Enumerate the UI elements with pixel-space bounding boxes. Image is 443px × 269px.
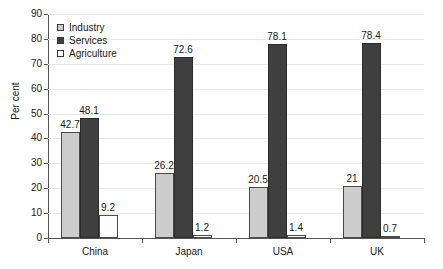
legend-swatch-icon xyxy=(57,50,64,57)
y-axis-tick-label: 30 xyxy=(2,158,42,168)
legend-item-industry[interactable]: Industry xyxy=(57,21,117,34)
y-axis-tick-label-container: 40 xyxy=(0,133,42,143)
bar-china-industry[interactable] xyxy=(61,132,80,238)
bar-group: 20.578.11.4 xyxy=(249,14,306,238)
y-axis-tick-label: 40 xyxy=(2,133,42,143)
y-axis-tick-label: 60 xyxy=(2,84,42,94)
y-axis-tick-label-container: 90 xyxy=(0,9,42,19)
legend-item-services[interactable]: Services xyxy=(57,34,117,47)
bar-uk-services[interactable] xyxy=(362,43,381,238)
y-axis-tick-label-container: 30 xyxy=(0,158,42,168)
bar-value-label: 0.7 xyxy=(373,224,408,234)
x-axis-tick xyxy=(48,239,49,243)
legend-label: Agriculture xyxy=(69,48,117,59)
category-label-usa: USA xyxy=(236,246,330,257)
bar-value-label: 78.4 xyxy=(354,31,389,41)
bar-value-label: 1.4 xyxy=(279,223,314,233)
x-axis-tick xyxy=(330,239,331,243)
bar-uk-agriculture[interactable] xyxy=(381,236,400,238)
legend-swatch-icon xyxy=(57,37,64,44)
bar-uk-industry[interactable] xyxy=(343,186,362,238)
legend-label: Services xyxy=(69,35,107,46)
bar-value-label: 48.1 xyxy=(72,106,107,116)
y-axis-tick-label-container: 50 xyxy=(0,109,42,119)
bar-value-label: 78.1 xyxy=(260,32,295,42)
y-axis-tick-label-container: 70 xyxy=(0,59,42,69)
legend-swatch-icon xyxy=(57,24,64,31)
y-axis-tick-label: 80 xyxy=(2,34,42,44)
bar-value-label: 9.2 xyxy=(91,203,126,213)
x-axis-tick xyxy=(424,239,425,243)
bar-group: 2178.40.7 xyxy=(343,14,400,238)
x-axis-tick xyxy=(142,239,143,243)
chart-legend: IndustryServicesAgriculture xyxy=(57,21,117,60)
y-axis-tick-label: 50 xyxy=(2,109,42,119)
category-label-china: China xyxy=(48,246,142,257)
y-axis-tick-label-container: 60 xyxy=(0,84,42,94)
y-axis-tick-label: 0 xyxy=(2,233,42,243)
y-axis-tick-label: 70 xyxy=(2,59,42,69)
bar-japan-services[interactable] xyxy=(174,57,193,238)
bar-chart: Per cent 9080706050403020100 42.748.19.2… xyxy=(0,0,443,269)
category-label-uk: UK xyxy=(330,246,424,257)
legend-item-agriculture[interactable]: Agriculture xyxy=(57,47,117,60)
y-axis-tick-label-container: 20 xyxy=(0,183,42,193)
legend-label: Industry xyxy=(69,22,105,33)
bar-usa-agriculture[interactable] xyxy=(287,235,306,238)
y-axis-tick-label: 90 xyxy=(2,9,42,19)
y-axis-tick-label-container: 80 xyxy=(0,34,42,44)
y-axis-tick-label: 20 xyxy=(2,183,42,193)
bar-japan-agriculture[interactable] xyxy=(193,235,212,238)
y-axis-tick-label-container: 10 xyxy=(0,208,42,218)
bar-group: 26.272.61.2 xyxy=(155,14,212,238)
bar-usa-services[interactable] xyxy=(268,44,287,238)
y-axis-tick-label: 10 xyxy=(2,208,42,218)
bar-usa-industry[interactable] xyxy=(249,187,268,238)
bar-value-label: 1.2 xyxy=(185,223,220,233)
bar-value-label: 72.6 xyxy=(166,45,201,55)
category-label-japan: Japan xyxy=(142,246,236,257)
bar-japan-industry[interactable] xyxy=(155,173,174,238)
y-axis-tick-label-container: 0 xyxy=(0,233,42,243)
bar-china-agriculture[interactable] xyxy=(99,215,118,238)
x-axis-tick xyxy=(236,239,237,243)
bar-china-services[interactable] xyxy=(80,118,99,238)
